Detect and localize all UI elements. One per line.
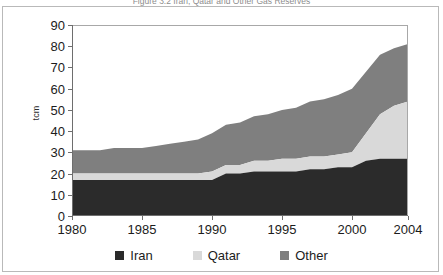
chart-title-text: Figure 3.2 Iran, Qatar and Other Gas Res… (133, 0, 311, 6)
plot-area: 0102030405060708090198019851990199520002… (72, 25, 408, 216)
y-axis-tick-label: 40 (51, 124, 65, 139)
y-axis-tick-label: 60 (51, 81, 65, 96)
x-axis-tick-label: 1995 (268, 222, 297, 237)
y-axis-tick-mark (68, 46, 72, 47)
y-axis-tick-label: 10 (51, 187, 65, 202)
y-axis-line (72, 25, 73, 216)
y-axis-tick-mark (68, 25, 72, 26)
legend-swatch-icon (280, 251, 289, 260)
x-axis-tick-label: 2004 (394, 222, 423, 237)
x-axis-tick-label: 2000 (338, 222, 367, 237)
legend-item-qatar: Qatar (193, 249, 241, 262)
legend-label: Other (295, 249, 328, 262)
y-axis-tick-mark (68, 174, 72, 175)
y-axis-tick-label: 90 (51, 18, 65, 33)
chart-legend: IranQatarOther (0, 249, 443, 262)
y-axis-tick-mark (68, 131, 72, 132)
y-axis-tick-label: 50 (51, 102, 65, 117)
legend-item-other: Other (280, 249, 328, 262)
plot-top-border (72, 25, 408, 26)
chart-figure: Figure 3.2 Iran, Qatar and Other Gas Res… (0, 0, 443, 275)
legend-label: Iran (130, 249, 152, 262)
y-axis-tick-mark (68, 195, 72, 196)
y-axis-tick-label: 20 (51, 166, 65, 181)
y-axis-tick-mark (68, 152, 72, 153)
y-axis-tick-label: 80 (51, 39, 65, 54)
y-axis-tick-mark (68, 110, 72, 111)
legend-swatch-icon (193, 251, 202, 260)
y-axis-tick-mark (68, 89, 72, 90)
x-axis-tick-mark (212, 216, 213, 220)
legend-label: Qatar (208, 249, 241, 262)
y-axis-tick-mark (68, 67, 72, 68)
x-axis-tick-mark (72, 216, 73, 220)
x-axis-tick-label: 1980 (58, 222, 87, 237)
x-axis-tick-mark (352, 216, 353, 220)
legend-swatch-icon (115, 251, 124, 260)
x-axis-tick-mark (142, 216, 143, 220)
x-axis-tick-mark (282, 216, 283, 220)
y-axis-tick-label: 30 (51, 145, 65, 160)
y-axis-title: tcm (31, 93, 41, 133)
x-axis-tick-label: 1990 (198, 222, 227, 237)
legend-item-iran: Iran (115, 249, 152, 262)
plot-right-border (407, 25, 408, 216)
x-axis-line (72, 215, 408, 216)
stacked-area-series (72, 25, 408, 216)
x-axis-tick-mark (408, 216, 409, 220)
y-axis-tick-label: 70 (51, 60, 65, 75)
x-axis-tick-label: 1985 (128, 222, 157, 237)
